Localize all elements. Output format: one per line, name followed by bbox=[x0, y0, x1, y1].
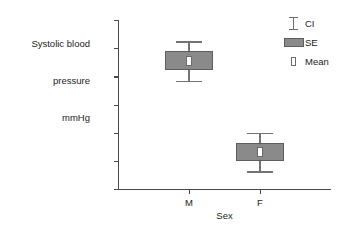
y-axis-title-line-1: Systolic blood bbox=[8, 38, 90, 50]
y-axis-title-line-3: mmHg bbox=[8, 112, 90, 124]
legend-label-ci: CI bbox=[305, 19, 315, 29]
chart-figure: Systolic blood pressure mmHg 12412813213… bbox=[0, 0, 351, 232]
y-axis-line bbox=[118, 20, 119, 190]
x-tick bbox=[260, 190, 261, 194]
y-tick bbox=[114, 20, 118, 21]
mean-marker bbox=[257, 147, 263, 157]
y-tick bbox=[114, 76, 118, 77]
legend-item-ci: CI bbox=[283, 14, 347, 33]
chart-legend: CI SE Mean bbox=[283, 14, 347, 71]
ci-cap-upper bbox=[247, 133, 273, 134]
x-axis-line bbox=[118, 189, 331, 190]
ci-cap-lower bbox=[176, 81, 202, 82]
x-tick-label: M bbox=[169, 197, 209, 208]
ci-cap-lower bbox=[247, 171, 273, 172]
y-tick bbox=[114, 189, 118, 190]
y-axis-title: Systolic blood pressure mmHg bbox=[8, 14, 90, 148]
y-tick bbox=[114, 48, 118, 49]
x-axis-title: Sex bbox=[118, 210, 331, 221]
ci-whisker-icon bbox=[283, 14, 305, 33]
legend-label-mean: Mean bbox=[305, 57, 329, 67]
legend-label-se: SE bbox=[305, 38, 318, 48]
se-box-icon bbox=[283, 33, 305, 52]
x-tick bbox=[189, 190, 190, 194]
mean-marker bbox=[186, 56, 192, 66]
x-tick-label: F bbox=[240, 197, 280, 208]
y-tick bbox=[114, 133, 118, 134]
ci-cap-upper bbox=[176, 41, 202, 42]
y-tick bbox=[114, 105, 118, 106]
legend-item-mean: Mean bbox=[283, 52, 347, 71]
y-tick bbox=[114, 161, 118, 162]
y-axis-title-line-2: pressure bbox=[8, 75, 90, 87]
legend-item-se: SE bbox=[283, 33, 347, 52]
mean-marker-icon bbox=[283, 52, 305, 71]
